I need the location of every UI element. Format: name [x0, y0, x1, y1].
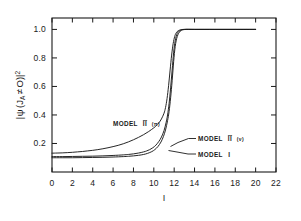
curve-series-2 — [52, 29, 256, 157]
x-tick-label-20: 20 — [251, 178, 261, 188]
x-tick-label-4: 4 — [90, 178, 95, 188]
curve-series-1 — [52, 29, 256, 156]
annot-model-1-roman: I — [228, 151, 230, 158]
leader-line-model-1 — [169, 151, 197, 155]
y-tick-label-0.8: 0.8 — [34, 53, 46, 63]
x-tick-label-22: 22 — [271, 178, 281, 188]
y-axis-title: |ψ(JA≠O)|2 — [14, 70, 27, 119]
annotation-leader-lines — [169, 139, 197, 155]
figure-root: 0246810121416182022 0.20.40.60.81.0 MODE… — [0, 0, 301, 221]
annotation-model-1: MODEL I — [198, 151, 231, 158]
y-axis-ticks — [52, 29, 276, 143]
x-tick-label-8: 8 — [131, 178, 136, 188]
y-tick-label-0.4: 0.4 — [34, 110, 46, 120]
annot-model-2-pi-paren: (π) — [152, 121, 160, 127]
annot-model-2-nu-roman: II — [228, 135, 232, 142]
annot-model-2-pi-roman: II — [143, 120, 147, 127]
y-tick-label-0.2: 0.2 — [34, 138, 46, 148]
annot-model-2-nu-paren: (ν) — [237, 136, 244, 142]
x-tick-label-12: 12 — [169, 178, 179, 188]
data-series-group — [52, 29, 256, 157]
annotation-model-2-pi: MODEL II (π) — [113, 120, 160, 127]
y-tick-label-1.0: 1.0 — [34, 24, 46, 34]
axes-box — [52, 18, 276, 172]
curve-series-0 — [52, 29, 256, 153]
annotation-model-2-nu: MODEL II (ν) — [198, 135, 244, 142]
plot-frame — [52, 18, 276, 172]
y-axis-title-group: |ψ(JA≠O)|2 — [14, 70, 27, 119]
annot-model-2-nu-main: MODEL — [198, 135, 223, 142]
x-axis-title: I — [163, 193, 166, 203]
x-tick-label-16: 16 — [210, 178, 220, 188]
chart-canvas: 0246810121416182022 0.20.40.60.81.0 MODE… — [0, 0, 301, 221]
x-tick-label-18: 18 — [230, 178, 240, 188]
y-axis-tick-labels: 0.20.40.60.81.0 — [34, 24, 46, 148]
y-tick-label-0.6: 0.6 — [34, 81, 46, 91]
x-tick-label-6: 6 — [111, 178, 116, 188]
svg-text:MODEL II (π): MODEL II (π) — [113, 120, 160, 127]
annot-model-1-main: MODEL — [198, 151, 223, 158]
annot-model-2-pi-main: MODEL — [113, 120, 138, 127]
leader-line-model-2-nu — [171, 139, 197, 147]
x-tick-label-2: 2 — [70, 178, 75, 188]
x-axis-ticks — [52, 18, 276, 172]
x-tick-label-0: 0 — [50, 178, 55, 188]
x-axis-tick-labels: 0246810121416182022 — [50, 178, 281, 188]
x-tick-label-10: 10 — [149, 178, 159, 188]
x-tick-label-14: 14 — [190, 178, 200, 188]
svg-text:MODEL I: MODEL I — [198, 151, 231, 158]
svg-text:MODEL II (ν): MODEL II (ν) — [198, 135, 244, 142]
